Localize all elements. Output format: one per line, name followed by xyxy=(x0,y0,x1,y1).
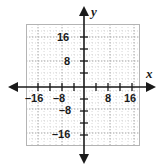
y-axis-arrow-up xyxy=(79,6,89,16)
x-tick-label-8: 8 xyxy=(105,93,111,104)
axes xyxy=(0,0,164,167)
y-tick-label-neg8: –8 xyxy=(59,105,71,116)
y-tick-label-neg16: –16 xyxy=(52,129,70,140)
x-axis-label: x xyxy=(146,67,153,80)
x-axis-arrow-left xyxy=(8,82,18,92)
x-axis-arrow-right xyxy=(146,82,156,92)
x-tick-label-16: 16 xyxy=(124,93,136,104)
y-axis-label: y xyxy=(91,5,97,18)
y-axis-arrow-down xyxy=(79,154,89,164)
y-tick-label-8: 8 xyxy=(64,56,70,67)
x-tick-label-neg16: –16 xyxy=(25,93,43,104)
x-tick-label-neg8: –8 xyxy=(53,93,65,104)
coordinate-plane-figure: –16 –8 8 16 16 8 –8 –16 y x xyxy=(0,0,164,167)
y-tick-label-16: 16 xyxy=(57,32,69,43)
